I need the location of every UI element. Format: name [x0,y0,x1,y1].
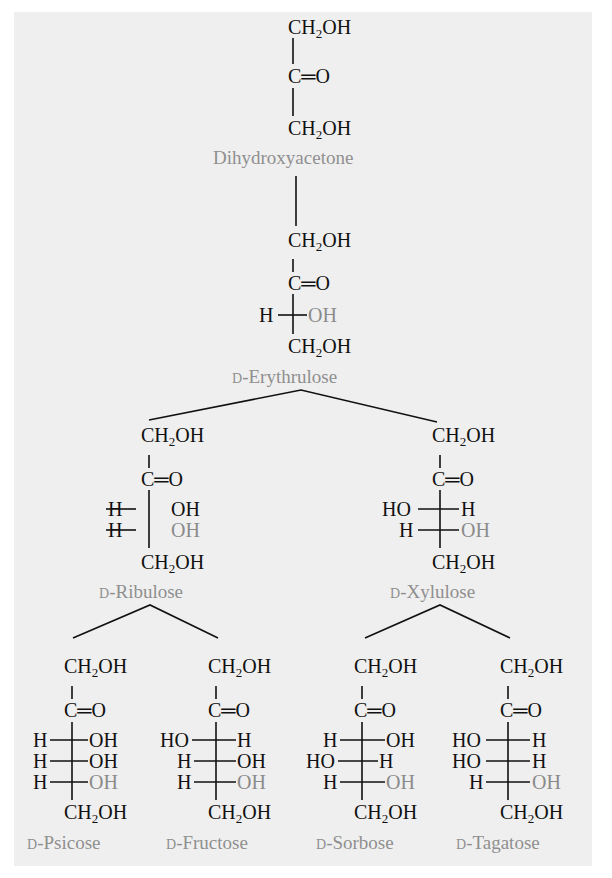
ch2oh-group: CH2OH [141,552,204,572]
carbonyl-group: C═O [288,273,330,293]
chiral-left: HO [452,730,481,750]
ch2oh-group: CH2OH [288,17,351,37]
chiral-right: OH [308,305,337,325]
ch2oh-group: CH2OH [500,656,563,676]
ch2oh-group: CH2OH [64,802,127,822]
carbonyl-group: C═O [208,700,250,720]
ch2oh-group: CH2OH [288,230,351,250]
chiral-left: H [33,772,47,792]
ch2oh-group: CH2OH [208,802,271,822]
chiral-right: OH [89,772,118,792]
chiral-left: HO [306,751,335,771]
chiral-right: OH [532,772,561,792]
ch2oh-group: CH2OH [288,336,351,356]
chiral-right: OH [386,772,415,792]
ch2oh-group: CH2OH [354,802,417,822]
label-fructose: D-Fructose [166,833,248,855]
chiral-left: HO [452,751,481,771]
chiral-right: OH [237,751,266,771]
carbonyl-group: C═O [64,700,106,720]
carbonyl-group: C═O [432,469,474,489]
chiral-right: OH [386,730,415,750]
label-sorbose: D-Sorbose [316,833,394,855]
ch2oh-group: CH2OH [141,425,204,445]
label-tagatose: D-Tagatose [456,833,540,855]
chiral-left: H [469,772,483,792]
chiral-right: H [237,730,251,750]
carbonyl-group: C═O [500,700,542,720]
chiral-right: OH [237,772,266,792]
carbonyl-group: C═O [354,700,396,720]
ch2oh-group: CH2OH [500,802,563,822]
chiral-right: OH [171,499,200,519]
chiral-left: H [177,751,191,771]
chiral-left: H [108,520,122,540]
ch2oh-group: CH2OH [354,656,417,676]
carbonyl-group: C═O [288,66,330,86]
chiral-left: H [323,772,337,792]
label-dihydroxyacetone: Dihydroxyacetone [213,148,353,168]
chiral-left: H [33,730,47,750]
chiral-left: H [399,520,413,540]
chiral-right: H [379,751,393,771]
chiral-right: OH [89,751,118,771]
chiral-right: H [532,751,546,771]
label-ribulose: D-Ribulose [99,582,183,604]
chiral-right: H [532,730,546,750]
chiral-left: H [108,499,122,519]
chiral-left: H [259,305,273,325]
label-psicose: D-Psicose [27,833,100,855]
chiral-left: HO [382,499,411,519]
label-xylulose: D-Xylulose [390,582,475,604]
chiral-right: OH [461,520,490,540]
chiral-right: OH [171,520,200,540]
ch2oh-group: CH2OH [288,118,351,138]
ch2oh-group: CH2OH [64,656,127,676]
label-erythrulose: D-Erythrulose [232,367,337,389]
chiral-right: H [461,499,475,519]
chiral-left: H [33,751,47,771]
chiral-left: H [177,772,191,792]
ch2oh-group: CH2OH [432,425,495,445]
ch2oh-group: CH2OH [208,656,271,676]
carbonyl-group: C═O [141,469,183,489]
ch2oh-group: CH2OH [432,552,495,572]
chiral-left: H [323,730,337,750]
chiral-right: OH [89,730,118,750]
chiral-left: HO [160,730,189,750]
